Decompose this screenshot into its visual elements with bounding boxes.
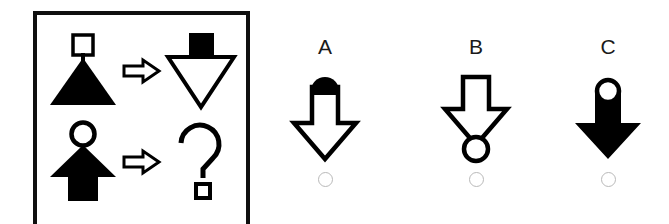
matrix-cell-source-1 bbox=[46, 27, 120, 115]
option-b-radio-button[interactable] bbox=[469, 172, 484, 187]
option-c-radio-wrapper[interactable] bbox=[553, 172, 663, 187]
option-a-radio-wrapper[interactable] bbox=[270, 172, 380, 187]
white-triangle-down-with-black-square-icon bbox=[164, 31, 238, 111]
option-b-label: B bbox=[421, 36, 531, 60]
option-b[interactable]: B bbox=[421, 36, 531, 196]
option-b-radio-wrapper[interactable] bbox=[421, 172, 531, 187]
matrix-row bbox=[37, 118, 246, 206]
option-c-figure bbox=[553, 74, 663, 166]
option-a-figure bbox=[270, 74, 380, 166]
option-c-radio-button[interactable] bbox=[601, 172, 616, 187]
double-right-arrow-icon bbox=[122, 149, 162, 175]
option-a-radio-button[interactable] bbox=[318, 172, 333, 187]
stimulus-panel bbox=[33, 11, 250, 224]
black-arrow-up-with-white-circle-icon bbox=[46, 119, 120, 205]
option-b-figure bbox=[421, 74, 531, 166]
option-a-label: A bbox=[270, 36, 380, 60]
matrix-row bbox=[37, 27, 246, 115]
matrix-cell-target-2 bbox=[164, 118, 238, 206]
double-right-arrow-icon bbox=[122, 58, 162, 84]
matrix-cell-source-2 bbox=[46, 118, 120, 206]
white-arrow-down-with-black-circle-icon bbox=[288, 75, 362, 165]
white-arrow-down-with-white-circle-bottom-icon bbox=[439, 73, 513, 167]
transform-operator bbox=[120, 118, 164, 206]
matrix-cell-target-1 bbox=[164, 27, 238, 115]
black-triangle-up-with-white-square-icon bbox=[46, 31, 120, 111]
option-a[interactable]: A bbox=[270, 36, 380, 196]
transform-operator bbox=[120, 27, 164, 115]
option-c-label: C bbox=[553, 36, 663, 60]
option-c[interactable]: C bbox=[553, 36, 663, 196]
black-arrow-down-with-white-circle-icon bbox=[571, 75, 645, 165]
question-mark-icon bbox=[169, 121, 233, 203]
